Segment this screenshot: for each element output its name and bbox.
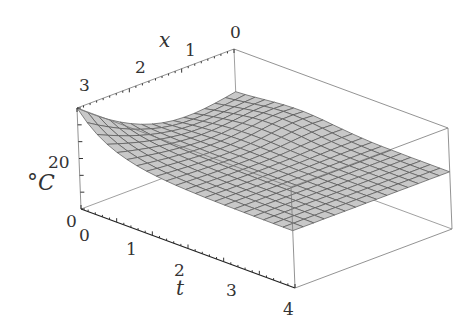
x-tick-1: 1 (185, 42, 196, 59)
t-axis-label: t (176, 278, 184, 298)
t-tick-4: 4 (283, 301, 294, 318)
x-tick-2: 2 (135, 59, 146, 76)
x-axis-label: x (159, 30, 170, 50)
t-tick-0: 0 (79, 227, 90, 244)
x-tick-0: 0 (230, 24, 241, 41)
t-tick-3: 3 (226, 282, 237, 299)
z-tick-20: 20 (48, 154, 70, 171)
z-tick-0: 0 (66, 213, 77, 230)
z-axis-label: °C (27, 172, 55, 194)
x-tick-3: 3 (79, 77, 90, 94)
surface-plot: 0 1 2 3 x 20 0 °C 0 1 2 3 4 t (0, 0, 454, 334)
t-tick-1: 1 (126, 241, 137, 258)
temperature-surface (77, 92, 450, 231)
